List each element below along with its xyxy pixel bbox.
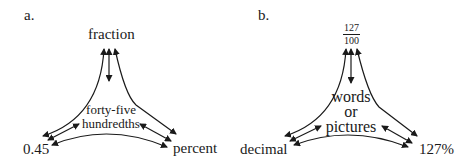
center-words: forty-five hundredths (82, 103, 140, 130)
node-percent: 127% (419, 142, 454, 157)
node-fraction-127-100: 127 100 (343, 23, 360, 46)
diagram-b: b. 127 100 decimal 127% words or picture… (234, 0, 468, 165)
node-decimal: decimal (240, 142, 287, 157)
fraction-numerator: 127 (343, 23, 360, 35)
center-line-2: hundredths (82, 117, 140, 131)
node-percent: percent (173, 141, 217, 156)
node-fraction: fraction (88, 27, 135, 42)
arrow-left-right (294, 135, 408, 147)
center-line-1: forty-five (82, 103, 140, 117)
fraction-denominator: 100 (343, 35, 360, 46)
diagram-a: a. fraction 0.45 percent forty-five hund… (0, 0, 234, 165)
center-line-2: or (320, 104, 382, 119)
panel-label-b: b. (258, 8, 269, 23)
node-decimal: 0.45 (23, 142, 49, 157)
center-words: words or pictures (320, 89, 382, 135)
center-line-1: words (320, 89, 382, 104)
arrow-left-right (52, 134, 167, 147)
center-line-3: pictures (320, 119, 382, 134)
panel-label-a: a. (24, 8, 34, 23)
